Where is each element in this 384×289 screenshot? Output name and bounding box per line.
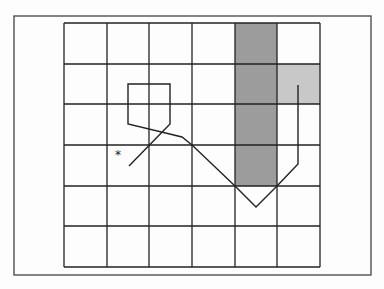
grid-diagram: * xyxy=(0,0,384,289)
star-marker: * xyxy=(115,148,121,162)
